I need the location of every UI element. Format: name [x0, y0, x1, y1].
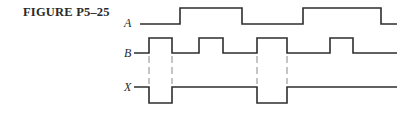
waveform-a: [140, 8, 397, 24]
signal-label-x: X: [123, 80, 132, 94]
signal-label-a: A: [123, 16, 132, 30]
waveform-b: [134, 38, 397, 53]
signal-label-b: B: [124, 46, 132, 60]
dashed-guide-lines: [149, 56, 287, 84]
waveforms: [134, 8, 397, 103]
signal-labels: A B X: [123, 16, 132, 94]
timing-diagram: A B X: [0, 0, 418, 116]
waveform-x: [134, 87, 397, 103]
